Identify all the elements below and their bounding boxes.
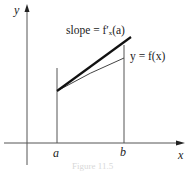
figure-caption: Figure 11.5 <box>72 161 113 171</box>
y-axis-label: y <box>14 3 19 18</box>
tick-label-a: a <box>53 146 59 161</box>
curve-annotation: y = f(x) <box>130 50 165 62</box>
slope-annotation: slope = f′ₓ(a) <box>66 24 125 36</box>
y-axis-arrow-icon <box>25 4 30 12</box>
curve-f <box>57 58 124 91</box>
x-axis-label: x <box>178 148 183 163</box>
tick-label-b: b <box>120 145 126 160</box>
tangent-line <box>57 37 131 91</box>
x-axis-arrow-icon <box>176 141 185 146</box>
